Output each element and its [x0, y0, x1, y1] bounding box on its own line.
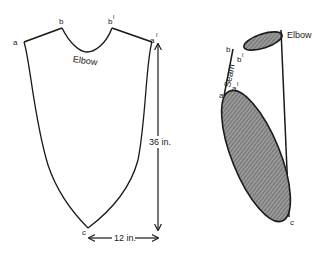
elbow-label: Elbow — [72, 54, 98, 67]
side-curve-left — [24, 42, 88, 228]
point-a1-label: a — [150, 36, 155, 45]
rolled-point-b-label: b — [226, 45, 231, 54]
elbow-opening — [242, 28, 284, 54]
point-b-label: b — [59, 17, 64, 26]
rolled-point-b1-superscript: l — [242, 52, 243, 58]
rolled-point-a1-superscript: l — [237, 81, 238, 87]
wrist-opening — [208, 82, 305, 230]
point-c-label: c — [82, 228, 86, 237]
height-dimension-label: 36 in. — [149, 137, 171, 147]
shoulder-edge-right — [112, 28, 152, 42]
rolled-point-a-label: a — [219, 91, 224, 100]
flat-sleeve-pattern: 36 in. 12 in. a b b l a l c Elbow — [13, 14, 171, 243]
sleeve-pattern-diagram: 36 in. 12 in. a b b l a l c Elbow Elbow … — [0, 0, 325, 258]
rolled-point-c-label: c — [290, 218, 294, 227]
width-dimension-label: 12 in. — [114, 233, 136, 243]
point-a1-superscript: l — [156, 32, 157, 38]
side-curve-right — [88, 42, 152, 228]
rolled-sleeve: Elbow b b l a l a c Seam — [208, 28, 312, 230]
point-b1-superscript: l — [113, 14, 114, 20]
rolled-elbow-label: Elbow — [287, 30, 312, 40]
elbow-curve — [62, 28, 112, 52]
shoulder-edge-left — [24, 28, 62, 42]
point-a-label: a — [13, 38, 18, 47]
